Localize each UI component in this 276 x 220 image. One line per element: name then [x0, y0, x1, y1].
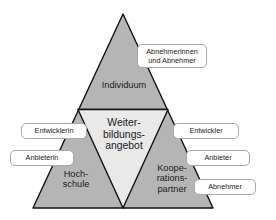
callout-anbieterin: Anbieterin — [10, 150, 74, 166]
callout-entwickler: Entwickler — [173, 123, 239, 139]
diagram-canvas: Individuum Weiter- bildungs- angebot Hoc… — [0, 0, 276, 220]
callout-entwicklerin: Entwicklerin — [21, 123, 87, 139]
callout-abnehmerinnen-und-abnehmer: Abnehmerinnen und Abnehmer — [137, 44, 207, 68]
callout-anbieter: Anbieter — [186, 150, 250, 166]
callout-abnehmer: Abnehmer — [194, 179, 256, 195]
